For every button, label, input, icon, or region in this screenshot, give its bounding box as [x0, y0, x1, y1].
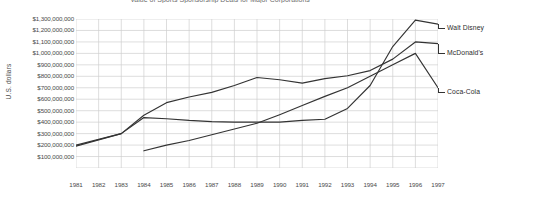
y-axis-tick: $1,300,000,000 — [2, 15, 74, 22]
series-label-coca-cola: Coca-Cola — [447, 88, 480, 95]
y-axis-tick: $200,000,000 — [2, 141, 74, 148]
series-leader-walt-disney — [438, 28, 445, 29]
y-axis-tick: $1,000,000,000 — [2, 49, 74, 56]
y-axis-tick-labels: $1,300,000,000$1,200,000,000$1,100,000,0… — [0, 0, 74, 198]
y-axis-tick: $1,100,000,000 — [2, 38, 74, 45]
series-leader-coca-cola — [438, 92, 445, 93]
y-axis-tick: $700,000,000 — [2, 84, 74, 91]
y-axis-tick: $800,000,000 — [2, 72, 74, 79]
chart-figure: Value of Sports Sponsorship Deals for Ma… — [0, 0, 547, 198]
y-axis-tick: $1,200,000,000 — [2, 26, 74, 33]
series-riser-walt-disney — [438, 24, 439, 28]
x-axis-tick: 1997 — [424, 181, 452, 188]
y-axis-tick: $400,000,000 — [2, 118, 74, 125]
series-riser-mcdonald-s — [438, 44, 439, 53]
plot-area — [76, 19, 438, 168]
series-label-mcdonald-s: McDonald's — [447, 49, 483, 56]
series-leader-mcdonald-s — [438, 53, 445, 54]
y-axis-tick: $300,000,000 — [2, 130, 74, 137]
series-label-walt-disney: Walt Disney — [447, 24, 484, 31]
series-line-coca-cola — [144, 53, 438, 150]
series-riser-coca-cola — [438, 88, 439, 92]
y-axis-tick: $900,000,000 — [2, 61, 74, 68]
y-axis-tick: $100,000,000 — [2, 153, 74, 160]
y-axis-tick: $500,000,000 — [2, 107, 74, 114]
y-axis-tick: $600,000,000 — [2, 95, 74, 102]
gridlines — [76, 19, 438, 168]
plot-svg — [76, 19, 438, 168]
